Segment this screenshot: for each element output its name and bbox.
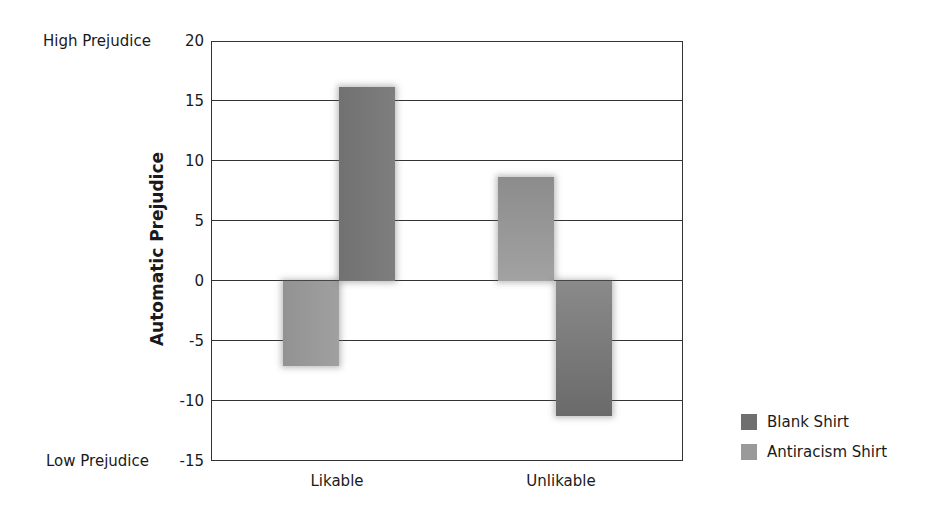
gridline-10 [211, 160, 683, 161]
ytick-5: 5 [164, 212, 204, 230]
ytick-minus-10: -10 [164, 392, 204, 410]
legend-label-blank: Blank Shirt [767, 413, 849, 431]
ytick-0: 0 [164, 272, 204, 290]
gridline-minus-5 [211, 340, 683, 341]
gridline-0 [211, 280, 683, 281]
bar-unlikable-blank [556, 281, 612, 416]
high-prejudice-label: High Prejudice [43, 32, 151, 50]
category-likable: Likable [277, 472, 397, 490]
category-unlikable: Unlikable [501, 472, 621, 490]
ytick-minus-5: -5 [164, 332, 204, 350]
plot-area [211, 41, 683, 461]
bar-likable-blank [339, 87, 395, 281]
legend-label-antiracism: Antiracism Shirt [767, 443, 887, 461]
legend-swatch-antiracism [741, 444, 757, 460]
gridline-15 [211, 100, 683, 101]
bar-likable-antiracism [283, 281, 339, 366]
ytick-15: 15 [164, 92, 204, 110]
bar-unlikable-antiracism [498, 177, 554, 281]
y-axis-title: Automatic Prejudice [147, 152, 167, 346]
ytick-20: 20 [164, 32, 204, 50]
ytick-10: 10 [164, 152, 204, 170]
gridline-5 [211, 220, 683, 221]
legend-swatch-blank [741, 414, 757, 430]
ytick-minus-15: -15 [164, 452, 204, 470]
low-prejudice-label: Low Prejudice [46, 452, 149, 470]
gridline-minus-10 [211, 400, 683, 401]
